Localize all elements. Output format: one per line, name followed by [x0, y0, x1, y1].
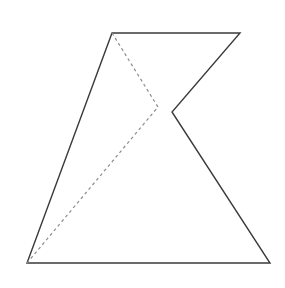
geometric-figure [0, 0, 285, 288]
figure-page: 如图所示，在△ABC中， [0, 0, 285, 288]
figure-dashed-construction-group [27, 33, 158, 263]
figure-solid-outline-group [27, 33, 270, 263]
solid-outline-path [27, 33, 270, 263]
dashed-construction-path [27, 33, 158, 263]
